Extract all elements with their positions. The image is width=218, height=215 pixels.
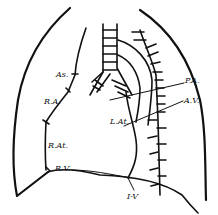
label-rat: R.At. — [47, 141, 68, 150]
chest-diagram: As. R.A. R.At. R.V. P.A. A.V. L.At. I-V — [0, 0, 218, 215]
label-av: A.V. — [183, 96, 199, 105]
left-heart-border — [126, 92, 137, 178]
trachea — [90, 24, 132, 98]
label-lat: L.At. — [109, 117, 129, 126]
label-rv: R.V. — [54, 164, 71, 173]
label-ra: R.A. — [43, 97, 61, 106]
label-as: As. — [55, 70, 68, 79]
pa-pointer-line — [110, 83, 184, 100]
label-iv: I-V — [126, 192, 139, 201]
iv-pointer-line — [128, 178, 134, 190]
aortic-arch-outer — [118, 40, 152, 125]
av-pointer-line — [124, 101, 183, 126]
label-pa: P.A. — [184, 76, 200, 85]
